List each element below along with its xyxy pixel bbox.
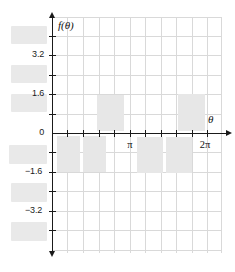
gridline-horizontal (52, 75, 222, 76)
y-axis-line (52, 17, 53, 253)
gridline-horizontal (52, 230, 222, 231)
graph-figure: 3.2 1.6 0 −1.6 −3.2 (0, 0, 235, 272)
x-axis-tick (83, 130, 84, 137)
left-margin-blank-2 (11, 65, 47, 83)
x-axis-tick (207, 130, 208, 137)
left-margin-blank-6 (11, 222, 47, 241)
gridline-horizontal (52, 250, 222, 251)
x-axis-tick (67, 130, 68, 137)
x-axis-tick (114, 130, 115, 137)
left-margin-blank-5 (11, 183, 47, 202)
left-margin-blank-1 (11, 26, 47, 44)
plot-blank-6 (166, 137, 192, 173)
x-axis-label: θ (208, 113, 213, 125)
plot-grid-panel (52, 17, 222, 253)
x-axis-tick (192, 130, 193, 137)
x-axis-tick (130, 130, 131, 137)
y-axis-tick (49, 75, 56, 76)
gridline-horizontal (52, 36, 222, 37)
x-tick-label-2pi: 2π (195, 139, 215, 150)
y-axis-down-arrow-icon (49, 251, 55, 257)
gridline-horizontal (52, 211, 222, 212)
y-tick-label-neg-3-2: −3.2 (8, 205, 42, 215)
x-axis-tick (99, 130, 100, 137)
gridline-horizontal (52, 17, 222, 18)
y-axis-tick (49, 152, 56, 153)
y-axis-tick (49, 230, 56, 231)
y-tick-label-0: 0 (10, 127, 44, 137)
x-axis-tick (161, 130, 162, 137)
x-axis-tick (145, 130, 146, 137)
y-axis-tick (49, 55, 56, 56)
y-axis-tick (49, 211, 56, 212)
left-margin-blank-4 (9, 145, 47, 164)
y-axis-tick (49, 172, 56, 173)
y-tick-label-3-2: 3.2 (10, 49, 44, 59)
gridline-vertical (221, 17, 222, 253)
plot-blank-2 (178, 94, 205, 131)
y-axis-tick (49, 114, 56, 115)
gridline-horizontal (52, 55, 222, 56)
y-tick-label-neg-1-6: −1.6 (8, 166, 42, 176)
plot-blank-4 (83, 136, 106, 172)
plot-blank-1 (97, 95, 124, 131)
y-axis-label: f(θ) (58, 19, 74, 31)
x-axis-right-arrow-icon (226, 130, 232, 136)
x-axis-line (52, 133, 227, 134)
gridline-horizontal (52, 191, 222, 192)
y-axis-tick (49, 36, 56, 37)
x-tick-label-pi: π (123, 139, 137, 150)
y-axis-tick (49, 191, 56, 192)
x-axis-tick (176, 130, 177, 137)
y-axis-up-arrow-icon (49, 12, 55, 18)
plot-blank-3 (57, 136, 80, 172)
y-axis-tick (49, 94, 56, 95)
y-tick-label-1-6: 1.6 (10, 88, 44, 98)
plot-blank-5 (137, 137, 163, 173)
